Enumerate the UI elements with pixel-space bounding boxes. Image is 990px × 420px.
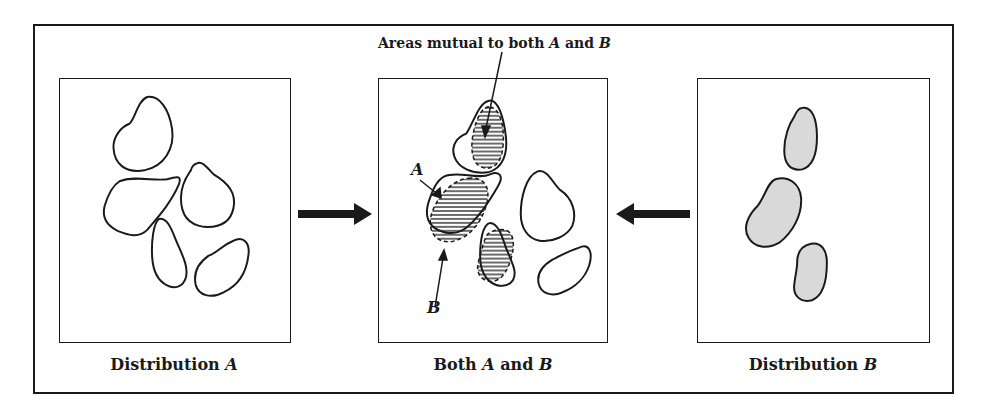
label-b: B [427,298,441,317]
panel-both [378,78,608,343]
distribution-a-shapes [60,79,290,342]
annotation-prefix: Areas mutual to both [378,35,549,51]
distribution-b-shapes [698,79,929,342]
panel-distribution-a [59,78,291,343]
label-a: A [411,160,423,179]
caption-mid: and [495,355,539,374]
caption-var: B [864,355,878,374]
caption-text: Distribution [749,355,864,374]
caption-both: Both A and B [393,355,593,374]
caption-var2: B [539,355,553,374]
caption-distribution-b: Distribution B [713,355,913,374]
caption-text: Both [433,355,482,374]
annotation-var-a: A [549,35,560,51]
caption-distribution-a: Distribution A [74,355,274,374]
annotation-mid: and [560,35,599,51]
caption-text: Distribution [110,355,225,374]
overlap-shapes [379,79,607,342]
mutual-areas-annotation: Areas mutual to both A and B [378,35,611,51]
annotation-var-b: B [599,35,611,51]
panel-distribution-b [697,78,930,343]
caption-var: A [225,355,237,374]
caption-var: A [482,355,494,374]
left-arrow-icon [614,200,692,228]
right-arrow-icon [296,200,374,228]
